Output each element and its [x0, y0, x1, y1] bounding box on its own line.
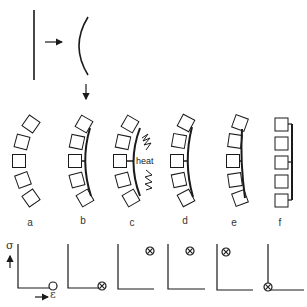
- graph-f: [264, 244, 304, 291]
- panel-b-cells: [69, 115, 94, 207]
- heat-label: heat: [136, 156, 154, 166]
- top-schematic: [34, 10, 88, 99]
- panel-label-e: e: [231, 217, 237, 228]
- graph-e: [217, 244, 253, 290]
- panel-a-cells: [13, 115, 41, 207]
- diagram-canvas: [0, 0, 307, 307]
- panel-e-cells: [227, 115, 249, 207]
- panel-d-cells: [171, 114, 195, 207]
- panel-label-c: c: [130, 217, 135, 228]
- panel-label-f: f: [279, 217, 282, 228]
- curved-membrane: [79, 17, 88, 75]
- panel-label-a: a: [27, 217, 33, 228]
- heat-zigzag-bottom-icon: [145, 170, 152, 190]
- panel-f-cells: [275, 118, 292, 207]
- epsilon-axis-label: ε: [50, 288, 56, 301]
- graph-d: [168, 244, 205, 289]
- graph-c: [118, 244, 154, 289]
- panel-label-b: b: [80, 215, 86, 226]
- sigma-axis-label: σ: [6, 239, 14, 252]
- heat-zigzag-top-icon: [142, 134, 151, 150]
- graph-b: [68, 244, 106, 290]
- panel-label-d: d: [182, 215, 188, 226]
